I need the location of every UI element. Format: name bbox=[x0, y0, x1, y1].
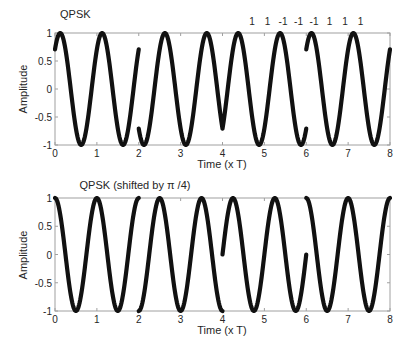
subplot-title: QPSK bbox=[60, 8, 91, 20]
bit-label: 1 bbox=[342, 16, 348, 27]
y-tick-label: -0.5 bbox=[35, 278, 53, 289]
axis-ticks: 012345678-1-0.500.51 bbox=[35, 28, 393, 159]
x-axis-label: Time (x T) bbox=[197, 158, 247, 170]
bit-label: -1 bbox=[279, 16, 288, 27]
x-tick-label: 6 bbox=[303, 314, 309, 325]
x-tick-label: 6 bbox=[303, 148, 309, 159]
x-tick-label: 3 bbox=[178, 314, 184, 325]
x-tick-label: 7 bbox=[345, 314, 351, 325]
bit-label: 1 bbox=[249, 16, 255, 27]
y-tick-label: 0 bbox=[46, 250, 52, 261]
x-tick-label: 0 bbox=[52, 148, 58, 159]
subplot-qpsk-shifted: QPSK (shifted by π /4) 012345678-1-0.500… bbox=[17, 179, 393, 336]
x-tick-label: 5 bbox=[262, 148, 268, 159]
x-tick-label: 2 bbox=[136, 148, 142, 159]
y-tick-label: -1 bbox=[43, 306, 52, 317]
waveform-line bbox=[55, 33, 390, 145]
subplot-qpsk: QPSK 11-1-1-1111 012345678-1-0.500.51 Ti… bbox=[17, 8, 393, 170]
x-tick-label: 1 bbox=[94, 148, 100, 159]
x-axis-label: Time (x T) bbox=[197, 324, 247, 336]
x-tick-label: 2 bbox=[136, 314, 142, 325]
y-tick-label: 1 bbox=[46, 193, 52, 204]
x-tick-label: 7 bbox=[345, 148, 351, 159]
x-tick-label: 0 bbox=[52, 314, 58, 325]
y-tick-label: 0 bbox=[46, 84, 52, 95]
y-tick-label: -0.5 bbox=[35, 112, 53, 123]
x-tick-label: 5 bbox=[262, 314, 268, 325]
x-tick-label: 8 bbox=[387, 314, 393, 325]
bit-label: 1 bbox=[327, 16, 333, 27]
y-axis-label: Amplitude bbox=[17, 65, 29, 114]
subplot-title: QPSK (shifted by π /4) bbox=[80, 179, 191, 191]
y-tick-label: 0.5 bbox=[38, 221, 52, 232]
y-tick-label: -1 bbox=[43, 140, 52, 151]
y-axis-label: Amplitude bbox=[17, 231, 29, 280]
bit-label: 1 bbox=[265, 16, 271, 27]
figure: QPSK 11-1-1-1111 012345678-1-0.500.51 Ti… bbox=[0, 0, 410, 350]
x-tick-label: 8 bbox=[387, 148, 393, 159]
bit-label: -1 bbox=[310, 16, 319, 27]
bit-label: 1 bbox=[358, 16, 364, 27]
y-tick-label: 1 bbox=[46, 28, 52, 39]
bit-annotations: 11-1-1-1111 bbox=[249, 16, 364, 27]
x-tick-label: 3 bbox=[178, 148, 184, 159]
x-tick-label: 1 bbox=[94, 314, 100, 325]
waveform-line bbox=[55, 198, 390, 311]
y-tick-label: 0.5 bbox=[38, 56, 52, 67]
bit-label: -1 bbox=[294, 16, 303, 27]
